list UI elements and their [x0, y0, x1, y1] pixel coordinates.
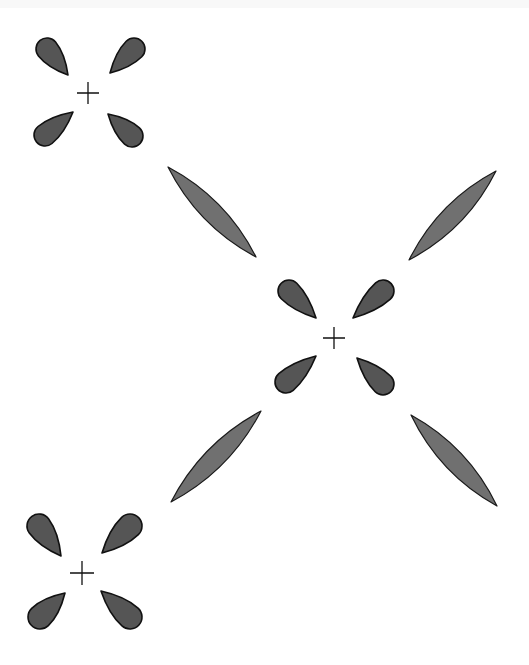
long-lobe-bottom-right — [411, 415, 497, 506]
lobe-upper-left — [36, 38, 68, 75]
atom-bottom-left — [27, 514, 142, 629]
bonding-lobes — [168, 167, 497, 506]
nucleus-plus-icon — [323, 327, 345, 349]
nucleus-plus-icon — [77, 82, 99, 104]
lobe-lower-right — [357, 358, 394, 395]
long-lobe-bottom-left — [171, 411, 261, 502]
orbital-diagram — [0, 0, 529, 665]
lobe-upper-right — [102, 514, 142, 553]
atom-top-left — [34, 38, 145, 147]
lobe-lower-right — [101, 591, 142, 629]
lobe-upper-left — [27, 514, 61, 556]
long-lobe-top-right — [409, 171, 496, 260]
lobe-lower-left — [34, 112, 73, 146]
atoms — [27, 38, 394, 629]
lobe-lower-right — [108, 114, 143, 147]
lobe-upper-left — [278, 280, 316, 318]
lobe-lower-left — [28, 593, 65, 629]
nucleus-plus-icon — [70, 561, 94, 585]
long-lobe-top-left — [168, 167, 256, 257]
lobe-lower-left — [275, 356, 316, 393]
lobe-upper-right — [353, 280, 394, 318]
atom-center — [275, 280, 394, 395]
lobe-upper-right — [110, 38, 145, 73]
